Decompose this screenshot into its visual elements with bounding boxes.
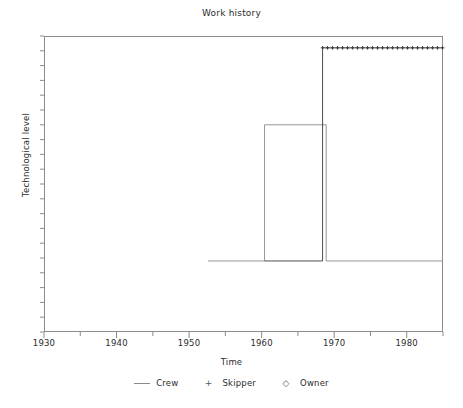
legend-label: Crew xyxy=(156,378,178,388)
y-axis-label: Technological level xyxy=(21,85,31,225)
x-tick-label: 1980 xyxy=(387,338,427,348)
x-axis-minor-ticks xyxy=(80,332,443,336)
plot-area xyxy=(44,36,443,332)
legend-label: Skipper xyxy=(222,378,256,388)
chart-screenshot: Work history Technological level Time 19… xyxy=(0,0,463,408)
x-tick-label: 1950 xyxy=(169,338,209,348)
x-tick-label: 1930 xyxy=(24,338,64,348)
diamond-marker-icon: ◇ xyxy=(278,379,294,388)
x-tick-label: 1970 xyxy=(314,338,354,348)
legend-item-skipper: + Skipper xyxy=(200,378,256,388)
x-tick-label: 1940 xyxy=(97,338,137,348)
x-axis-label: Time xyxy=(0,357,463,367)
legend-label: Owner xyxy=(300,378,329,388)
line-swatch-icon xyxy=(134,383,150,384)
x-tick-label: 1960 xyxy=(242,338,282,348)
page-title: Work history xyxy=(0,8,463,18)
legend-item-owner: ◇ Owner xyxy=(278,378,329,388)
plus-marker-icon: + xyxy=(200,379,216,388)
chart-legend: Crew + Skipper ◇ Owner xyxy=(0,378,463,388)
legend-item-crew: Crew xyxy=(134,378,178,388)
